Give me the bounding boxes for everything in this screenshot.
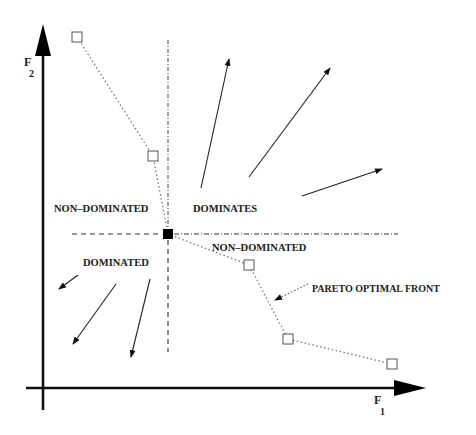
y-axis: [35, 24, 51, 410]
dominates-arrows: [201, 59, 382, 196]
region-label-lower-right: NON–DOMINATED: [212, 242, 307, 253]
region-label-upper-right: DOMINATES: [193, 203, 257, 214]
pareto-point: [148, 151, 158, 161]
arrow-icon: [201, 59, 229, 188]
pareto-points: [72, 32, 397, 369]
arrow-icon: [131, 279, 150, 357]
pareto-point: [283, 334, 293, 344]
reference-point: [163, 229, 173, 239]
region-label-lower-left: DOMINATED: [83, 257, 149, 268]
pareto-point: [244, 260, 254, 270]
arrow-icon: [73, 284, 116, 344]
region-label-upper-left: NON–DOMINATED: [54, 203, 149, 214]
dominated-arrows: [59, 275, 150, 357]
y-axis-arrowhead-icon: [35, 24, 51, 56]
arrow-icon: [302, 169, 382, 196]
pareto-point: [72, 32, 82, 42]
pareto-front-line: [77, 37, 392, 364]
pareto-point: [387, 359, 397, 369]
x-axis-label-subscript: 1: [380, 406, 385, 417]
y-axis-label: F: [24, 55, 31, 69]
arrow-icon: [59, 275, 78, 289]
x-axis-label: F: [374, 393, 381, 407]
x-axis: [26, 380, 426, 396]
pareto-front-label: PARETO OPTIMAL FRONT: [312, 283, 440, 294]
pareto-diagram: F 2 F 1 NON–DOMINATED DOMINATES NON–DOMI…: [0, 0, 476, 435]
pareto-pointer-arrow-icon: [275, 284, 308, 300]
y-axis-label-subscript: 2: [29, 68, 34, 79]
x-axis-arrowhead-icon: [394, 380, 426, 396]
quadrant-dividers: [72, 40, 398, 352]
arrow-icon: [249, 68, 330, 177]
